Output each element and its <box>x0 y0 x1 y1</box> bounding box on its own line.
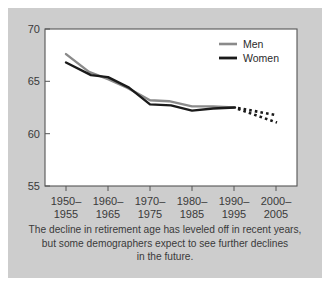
x-tick-label-3-top: 1980– <box>177 195 208 207</box>
caption-line-2: but some demographers expect to see furt… <box>16 237 314 251</box>
x-axis-ticks <box>66 186 276 191</box>
y-tick-label-60: 60 <box>28 128 40 140</box>
caption-line-3: in the future. <box>16 250 314 264</box>
figure-container: 70 65 60 55 1950– 1955 1960– 1965 1970– … <box>0 0 330 286</box>
x-tick-label-2-top: 1970– <box>135 195 166 207</box>
legend-label-women: Women <box>243 52 279 64</box>
x-tick-label-0-top: 1950– <box>51 195 82 207</box>
chart-caption: The decline in retirement age has levele… <box>16 223 314 264</box>
x-tick-label-0-bottom: 1955 <box>54 208 78 220</box>
y-tick-label-70: 70 <box>28 23 40 35</box>
x-tick-label-1-top: 1960– <box>93 195 124 207</box>
y-tick-label-65: 65 <box>28 75 40 87</box>
caption-line-1: The decline in retirement age has levele… <box>16 223 314 237</box>
x-tick-label-5-bottom: 2005 <box>264 208 288 220</box>
x-tick-label-4-top: 1990– <box>219 195 250 207</box>
x-tick-label-1-bottom: 1965 <box>96 208 120 220</box>
y-tick-label-55: 55 <box>28 180 40 192</box>
x-tick-label-4-bottom: 1995 <box>222 208 246 220</box>
x-tick-label-5-top: 2000– <box>261 195 292 207</box>
x-tick-label-3-bottom: 1985 <box>180 208 204 220</box>
legend-label-men: Men <box>243 38 264 50</box>
x-tick-label-2-bottom: 1975 <box>138 208 162 220</box>
